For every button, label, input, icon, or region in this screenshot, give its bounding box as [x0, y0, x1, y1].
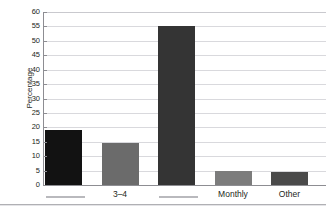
bar: [158, 26, 195, 185]
page-rule-shadow: [0, 205, 326, 206]
y-tick-0: [43, 185, 47, 186]
y-axis-title: Percentage: [26, 40, 34, 136]
y-tick-label-0: 0: [16, 181, 40, 189]
y-tick-55: [43, 26, 47, 27]
x-axis-label-redaction: [46, 196, 85, 198]
bar: [45, 130, 82, 185]
y-tick-45: [43, 55, 47, 56]
y-tick-label-10: 10: [16, 152, 40, 160]
figure: 051015202530354045505560 Percentage 3–4M…: [0, 0, 326, 212]
x-axis-line: [43, 185, 326, 186]
x-axis-label: Monthly: [205, 190, 262, 199]
y-tick-10: [43, 156, 47, 157]
bar: [102, 143, 139, 185]
y-tick-30: [43, 99, 47, 100]
y-tick-40: [43, 70, 47, 71]
x-axis-label: 3–4: [92, 190, 149, 199]
x-axis-label-redaction: [159, 196, 198, 198]
y-tick-label-5: 5: [16, 167, 40, 175]
y-tick-20: [43, 127, 47, 128]
y-tick-15: [43, 142, 47, 143]
x-axis-label: Other: [261, 190, 318, 199]
y-tick-35: [43, 84, 47, 85]
y-tick-label-15: 15: [16, 138, 40, 146]
gridline-60: [43, 12, 326, 13]
y-tick-50: [43, 41, 47, 42]
plot-area: [43, 12, 326, 185]
y-tick-label-60: 60: [16, 8, 40, 16]
bar: [271, 172, 308, 185]
bar: [215, 171, 252, 185]
y-tick-60: [43, 12, 47, 13]
clipped-chart-title: [96, 0, 296, 7]
y-tick-label-55: 55: [16, 22, 40, 30]
y-tick-5: [43, 171, 47, 172]
y-tick-25: [43, 113, 47, 114]
